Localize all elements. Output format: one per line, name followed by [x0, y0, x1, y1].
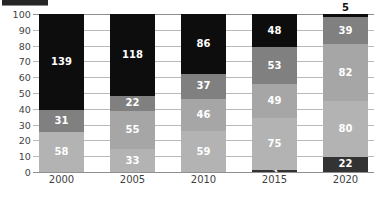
y-axis: 0102030405060708090100: [0, 14, 31, 172]
bar-segment[interactable]: 22: [323, 157, 368, 172]
bar-segment-label: 37: [197, 81, 211, 91]
bar-segment[interactable]: 139: [39, 14, 84, 110]
bar-segment-label: 33: [126, 156, 140, 166]
bar-segment[interactable]: 22: [110, 96, 155, 111]
y-axis-tick-label: 0: [2, 167, 31, 178]
y-axis-tick-label: 80: [2, 40, 31, 51]
bar-segment[interactable]: 39: [323, 17, 368, 44]
bar-segment[interactable]: 46: [181, 99, 226, 131]
plot-area: 1393158118225533863746594853497535398280…: [33, 14, 374, 172]
bar-segment-label: 31: [55, 116, 69, 126]
bar-segment-label: 86: [197, 39, 211, 49]
bar-segment[interactable]: 48: [252, 14, 297, 47]
y-axis-tick-label: 20: [2, 135, 31, 146]
x-axis-tick-label-2005: 2005: [110, 174, 155, 194]
bar-segment-label: 80: [339, 124, 353, 134]
bar-segment-label: 39: [339, 26, 353, 36]
y-axis-tick-label: 50: [2, 88, 31, 99]
bar-segment[interactable]: 33: [110, 149, 155, 172]
y-axis-tick-label: 10: [2, 151, 31, 162]
x-axis-tick-label-2015: 2015: [252, 174, 297, 194]
y-axis-tick-label: 40: [2, 103, 31, 114]
bar-segment[interactable]: 58: [39, 132, 84, 172]
bar-segment[interactable]: 82: [323, 44, 368, 101]
bar-column-2000[interactable]: 1393158: [39, 14, 84, 172]
bar-segment-label: 75: [268, 139, 282, 149]
bar-segment[interactable]: 59: [181, 131, 226, 172]
bar-segment-label: 46: [197, 110, 211, 120]
bar-segment[interactable]: 37: [181, 74, 226, 100]
y-axis-tick-label: 70: [2, 56, 31, 67]
x-axis-tick-label-2020: 2020: [323, 174, 368, 194]
bar-segment-label: 59: [197, 147, 211, 157]
bar-segment-label: 139: [51, 57, 72, 67]
bar-segment[interactable]: 3: [252, 170, 297, 172]
y-axis-tick-label: 90: [2, 24, 31, 35]
bar-segment[interactable]: 80: [323, 101, 368, 156]
bar-segment[interactable]: 86: [181, 14, 226, 74]
legend-swatch-cropped: [2, 0, 48, 6]
x-axis-line: [33, 172, 374, 173]
bar-segment-label-outside: 5: [323, 2, 368, 13]
bar-column-2020[interactable]: 539828022: [323, 14, 368, 172]
bar-segment[interactable]: 118: [110, 14, 155, 96]
bar-segment[interactable]: 49: [252, 84, 297, 118]
bar-segment[interactable]: 55: [110, 111, 155, 149]
bar-segment-label: 118: [122, 50, 143, 60]
bar-segment-label: 48: [268, 26, 282, 36]
stacked-bar-chart: 0102030405060708090100 13931581182255338…: [0, 0, 377, 200]
bar-column-2015[interactable]: 485349753: [252, 14, 297, 172]
y-axis-tick-label: 100: [2, 9, 31, 20]
bar-column-2005[interactable]: 118225533: [110, 14, 155, 172]
bar-column-2010[interactable]: 86374659: [181, 14, 226, 172]
bar-segment[interactable]: 31: [39, 110, 84, 131]
bar-segment-label: 22: [339, 159, 353, 169]
bar-segment-label: 53: [268, 61, 282, 71]
bar-segment-label: 58: [55, 147, 69, 157]
bar-segment[interactable]: 53: [252, 47, 297, 84]
bar-segment-label: 22: [126, 98, 140, 108]
bar-segment[interactable]: 75: [252, 118, 297, 170]
y-axis-tick-label: 30: [2, 119, 31, 130]
x-axis-tick-label-2000: 2000: [39, 174, 84, 194]
x-axis-tick-label-2010: 2010: [181, 174, 226, 194]
y-axis-tick-label: 60: [2, 72, 31, 83]
bar-group: 1393158118225533863746594853497535398280…: [33, 14, 374, 172]
bar-segment-label: 55: [126, 125, 140, 135]
bar-segment-label: 3: [271, 170, 278, 172]
bar-segment-label: 49: [268, 96, 282, 106]
x-axis: 20002005201020152020: [33, 174, 374, 194]
bar-segment-label: 82: [339, 68, 353, 78]
